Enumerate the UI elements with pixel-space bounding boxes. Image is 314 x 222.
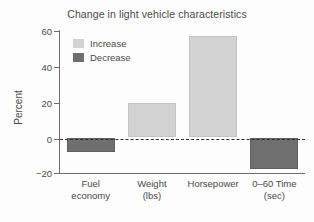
y-tick-label-20: 20 (12, 98, 52, 109)
chart-figure: Change in light vehicle characteristics … (0, 0, 314, 222)
chart-title: Change in light vehicle characteristics (0, 8, 314, 20)
legend-swatch-increase-icon (73, 39, 84, 48)
y-tick-label-0: 0 (12, 134, 52, 145)
y-tick-label-n20: −20 (12, 168, 52, 179)
legend-label-increase: Increase (90, 38, 126, 49)
x-tick-label-fuel-economy: Fuel economy (60, 178, 121, 201)
chart-legend: Increase Decrease (73, 37, 131, 65)
bar-weight[interactable] (128, 103, 176, 138)
x-tick-label-line2: (sec) (244, 190, 305, 202)
bar-horsepower[interactable] (189, 36, 237, 137)
legend-item-increase[interactable]: Increase (73, 37, 131, 50)
x-tick-label-0-60-time: 0–60 Time (sec) (244, 178, 305, 201)
y-tick-label-60: 60 (12, 26, 52, 37)
legend-label-decrease: Decrease (90, 52, 131, 63)
x-tick-label-line1: 0–60 Time (252, 178, 296, 189)
bar-0-60-time[interactable] (250, 138, 298, 170)
legend-item-decrease[interactable]: Decrease (73, 51, 131, 64)
y-tick-label-40: 40 (12, 62, 52, 73)
x-tick-label-line1: Horsepower (188, 178, 239, 189)
zero-reference-line (60, 139, 305, 140)
legend-swatch-decrease-icon (73, 53, 84, 62)
x-tick-label-line2: (lbs) (121, 190, 182, 202)
x-tick-label-weight: Weight (lbs) (121, 178, 182, 201)
x-axis-line (59, 173, 305, 174)
x-tick-label-line1: Weight (137, 178, 166, 189)
x-tick-label-line1: Fuel (81, 178, 99, 189)
x-tick-label-line2: economy (60, 190, 121, 202)
x-tick-label-horsepower: Horsepower (183, 178, 244, 190)
